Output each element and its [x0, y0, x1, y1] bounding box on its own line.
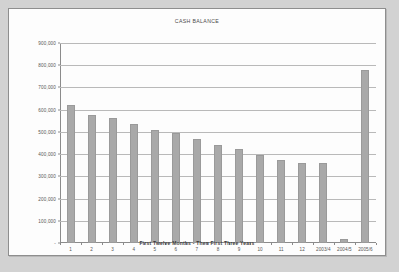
bar-slot [165, 43, 186, 243]
bar-slot [60, 43, 81, 243]
x-tick-label: 4 [132, 247, 135, 252]
bar-slot [292, 43, 313, 243]
bar [193, 139, 201, 243]
y-tick-label: 700,000 [38, 85, 56, 90]
bar [109, 118, 117, 243]
bar-slot [250, 43, 271, 243]
x-tick-label: 2005/6 [358, 247, 373, 252]
bar-slot [334, 43, 355, 243]
bar [277, 160, 285, 243]
y-tick-label: 900,000 [38, 41, 56, 46]
x-tick-label: 11 [279, 247, 284, 252]
x-tick-label: 5 [153, 247, 156, 252]
bar [214, 145, 222, 243]
bar [361, 70, 369, 243]
bar [88, 115, 96, 243]
bar-slot [123, 43, 144, 243]
x-tick-label: 1 [69, 247, 72, 252]
x-axis-title: First Twelve Months - Then First Three Y… [9, 240, 385, 246]
bar [298, 163, 306, 243]
plot-area: 900,000800,000700,000600,000500,000400,0… [60, 43, 376, 243]
x-tick-label: 9 [238, 247, 241, 252]
bar-series [60, 43, 376, 243]
bar [235, 149, 243, 243]
bar-slot [102, 43, 123, 243]
bar-slot [271, 43, 292, 243]
chart-panel: CASH BALANCE 900,000800,000700,000600,00… [8, 8, 386, 256]
bar [67, 105, 75, 243]
y-tick-label: 800,000 [38, 63, 56, 68]
x-tick-label: 10 [257, 247, 262, 252]
bar [256, 155, 264, 243]
x-tick-label: 2004/5 [337, 247, 352, 252]
bar [319, 163, 327, 243]
bar-slot [313, 43, 334, 243]
bar-slot [186, 43, 207, 243]
y-tick-label: 100,000 [38, 218, 56, 223]
bar [151, 130, 159, 243]
x-tick-label: 12 [300, 247, 305, 252]
x-tick-label: 2003/4 [316, 247, 331, 252]
x-tick-label: 2 [90, 247, 93, 252]
bar-slot [144, 43, 165, 243]
bar-slot [355, 43, 376, 243]
y-tick-label: 500,000 [38, 129, 56, 134]
chart-title: CASH BALANCE [9, 18, 385, 24]
bar-slot [229, 43, 250, 243]
bar [172, 133, 180, 243]
x-tick-label: 6 [175, 247, 178, 252]
y-tick-label: 600,000 [38, 107, 56, 112]
bar-slot [81, 43, 102, 243]
y-tick-label: 400,000 [38, 152, 56, 157]
x-tick-label: 8 [217, 247, 220, 252]
y-tick-label: 300,000 [38, 174, 56, 179]
bar [130, 124, 138, 243]
x-tick-label: 7 [196, 247, 199, 252]
y-tick-label: 200,000 [38, 196, 56, 201]
bar-slot [207, 43, 228, 243]
x-tick-label: 3 [111, 247, 114, 252]
scanned-page-background: CASH BALANCE 900,000800,000700,000600,00… [0, 0, 399, 272]
